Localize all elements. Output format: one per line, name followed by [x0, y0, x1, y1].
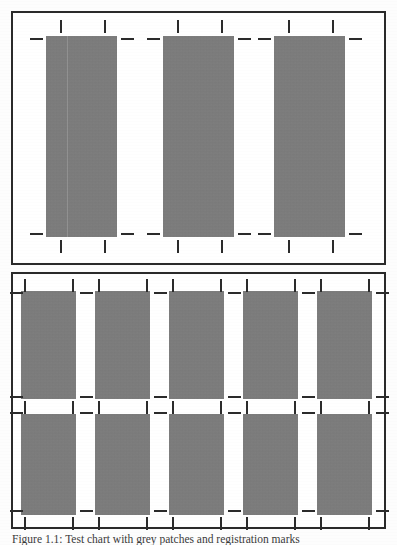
registration-tick-horizontal	[80, 396, 93, 398]
registration-tick-vertical	[294, 279, 296, 292]
registration-tick-horizontal	[376, 412, 389, 414]
registration-tick-horizontal	[302, 412, 315, 414]
gray-patch	[21, 291, 76, 399]
registration-tick-horizontal	[154, 510, 167, 512]
registration-tick-vertical	[104, 240, 106, 253]
gray-patch	[95, 291, 150, 399]
gray-patch	[21, 414, 76, 515]
registration-tick-horizontal	[147, 233, 160, 235]
registration-tick-vertical	[104, 20, 106, 33]
registration-tick-vertical	[320, 401, 322, 414]
registration-tick-horizontal	[80, 292, 93, 294]
registration-tick-horizontal	[10, 412, 23, 414]
registration-tick-vertical	[98, 517, 100, 530]
registration-tick-horizontal	[349, 38, 362, 40]
registration-tick-horizontal	[258, 233, 271, 235]
registration-tick-vertical	[368, 279, 370, 292]
registration-tick-horizontal	[80, 412, 93, 414]
registration-tick-vertical	[221, 240, 223, 253]
gray-patch	[243, 414, 298, 515]
gray-patch	[163, 36, 234, 237]
registration-tick-vertical	[368, 401, 370, 414]
registration-tick-vertical	[294, 517, 296, 530]
registration-tick-horizontal	[238, 38, 251, 40]
gray-patch	[243, 291, 298, 399]
registration-tick-vertical	[98, 401, 100, 414]
registration-tick-horizontal	[80, 510, 93, 512]
registration-tick-vertical	[221, 20, 223, 33]
registration-tick-horizontal	[376, 396, 389, 398]
registration-tick-vertical	[220, 517, 222, 530]
gray-patch	[95, 414, 150, 515]
registration-tick-vertical	[368, 517, 370, 530]
registration-tick-horizontal	[228, 412, 241, 414]
registration-tick-horizontal	[238, 233, 251, 235]
registration-tick-horizontal	[121, 38, 134, 40]
registration-tick-vertical	[220, 401, 222, 414]
registration-tick-vertical	[332, 20, 334, 33]
registration-tick-vertical	[172, 517, 174, 530]
gray-patch	[317, 291, 372, 399]
gray-patch	[274, 36, 345, 237]
registration-tick-horizontal	[10, 292, 23, 294]
registration-tick-horizontal	[228, 292, 241, 294]
registration-tick-horizontal	[154, 396, 167, 398]
gray-patch	[169, 414, 224, 515]
registration-tick-vertical	[60, 240, 62, 253]
gray-patch	[317, 414, 372, 515]
figure-caption: Figure 1.1: Test chart with grey patches…	[12, 533, 392, 545]
registration-tick-vertical	[72, 279, 74, 292]
registration-tick-vertical	[288, 20, 290, 33]
registration-tick-horizontal	[121, 233, 134, 235]
registration-tick-vertical	[146, 517, 148, 530]
registration-tick-vertical	[332, 240, 334, 253]
registration-tick-vertical	[24, 279, 26, 292]
registration-tick-vertical	[177, 20, 179, 33]
registration-tick-vertical	[24, 517, 26, 530]
upper-panel-content	[13, 13, 384, 263]
registration-tick-vertical	[72, 517, 74, 530]
registration-tick-vertical	[246, 401, 248, 414]
registration-tick-vertical	[288, 240, 290, 253]
registration-tick-vertical	[172, 279, 174, 292]
registration-tick-vertical	[246, 279, 248, 292]
registration-tick-vertical	[294, 401, 296, 414]
registration-tick-horizontal	[30, 233, 43, 235]
lower-panel-content	[13, 274, 384, 527]
registration-tick-vertical	[177, 240, 179, 253]
figure-page: Figure 1.1: Test chart with grey patches…	[0, 0, 397, 545]
gray-patch	[46, 36, 117, 237]
registration-tick-vertical	[60, 20, 62, 33]
registration-tick-horizontal	[302, 292, 315, 294]
registration-tick-horizontal	[10, 396, 23, 398]
registration-tick-vertical	[220, 279, 222, 292]
upper-panel	[11, 11, 386, 265]
registration-tick-horizontal	[154, 292, 167, 294]
registration-tick-horizontal	[10, 510, 23, 512]
registration-tick-vertical	[320, 279, 322, 292]
registration-tick-horizontal	[30, 38, 43, 40]
registration-tick-horizontal	[228, 510, 241, 512]
registration-tick-horizontal	[302, 510, 315, 512]
registration-tick-vertical	[172, 401, 174, 414]
registration-tick-horizontal	[228, 396, 241, 398]
registration-tick-vertical	[320, 517, 322, 530]
registration-tick-vertical	[146, 401, 148, 414]
registration-tick-vertical	[98, 279, 100, 292]
registration-tick-horizontal	[154, 412, 167, 414]
registration-tick-horizontal	[302, 396, 315, 398]
registration-tick-vertical	[24, 401, 26, 414]
registration-tick-horizontal	[376, 292, 389, 294]
registration-tick-vertical	[246, 517, 248, 530]
registration-tick-horizontal	[349, 233, 362, 235]
lower-panel	[11, 272, 386, 529]
registration-tick-vertical	[146, 279, 148, 292]
registration-tick-vertical	[72, 401, 74, 414]
registration-tick-horizontal	[376, 510, 389, 512]
registration-tick-horizontal	[147, 38, 160, 40]
gray-patch	[169, 291, 224, 399]
registration-tick-horizontal	[258, 38, 271, 40]
